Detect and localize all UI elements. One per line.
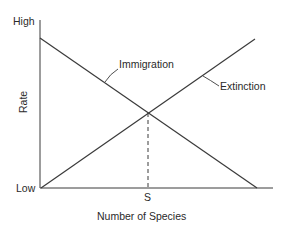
extinction-leader [203,76,219,86]
immigration-leader [105,69,118,82]
extinction-label: Extinction [220,80,266,92]
immigration-label: Immigration [119,58,174,70]
x-axis-title: Number of Species [97,210,186,222]
y-axis-low-label: Low [16,182,35,194]
y-axis-high-label: High [13,15,35,27]
y-axis-title: Rate [17,91,29,113]
equilibrium-s-label: S [144,191,151,203]
